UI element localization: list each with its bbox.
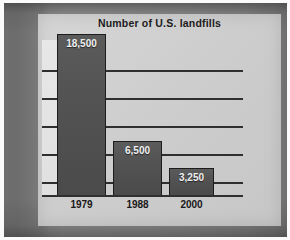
x-axis-label-1988: 1988 <box>113 199 162 210</box>
chart-screenshot: Number of U.S. landfills 18,500 6,500 3,… <box>0 0 290 240</box>
plot-area: 18,500 6,500 3,250 <box>42 34 243 196</box>
bar-1979[interactable]: 18,500 <box>57 34 106 196</box>
bar-1988[interactable]: 6,500 <box>113 141 162 196</box>
bar-2000[interactable]: 3,250 <box>169 168 214 196</box>
x-axis-label-1979: 1979 <box>57 199 106 210</box>
bar-value-label: 6,500 <box>114 145 161 156</box>
x-axis-baseline <box>42 195 243 197</box>
x-axis-label-2000: 2000 <box>169 199 214 210</box>
bar-value-label: 18,500 <box>58 38 105 49</box>
bar-value-label: 3,250 <box>170 172 213 183</box>
page-title: Number of U.S. landfills <box>38 17 281 29</box>
